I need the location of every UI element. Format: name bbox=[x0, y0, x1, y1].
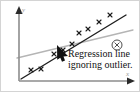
regression-outlier-figure: y x Regression line ignoring outlier. bbox=[0, 0, 140, 92]
caption-line-1: Regression line bbox=[68, 48, 140, 59]
annotation-caption: Regression line ignoring outlier. bbox=[68, 48, 140, 70]
caption-line-2: ignoring outlier. bbox=[68, 59, 140, 70]
plot-canvas bbox=[0, 0, 140, 92]
y-axis-label: y bbox=[22, 6, 25, 14]
x-axis-label: x bbox=[126, 70, 129, 78]
